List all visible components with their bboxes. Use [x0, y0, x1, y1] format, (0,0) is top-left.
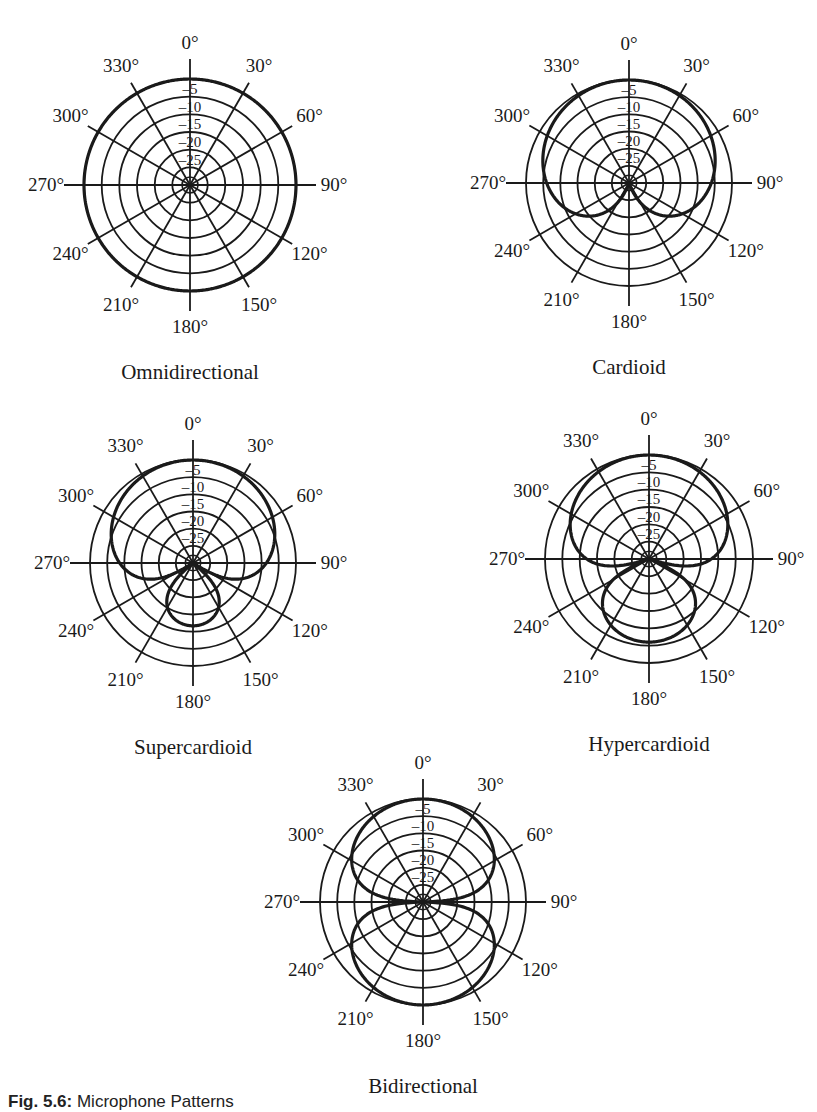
theta-label-300: 300° [58, 485, 94, 506]
plot-title: Hypercardioid [588, 732, 710, 756]
ring-label: –15 [178, 116, 202, 132]
theta-label-60: 60° [297, 485, 324, 506]
ring-label: –20 [411, 852, 435, 868]
ring-label: –15 [411, 835, 435, 851]
theta-label-120: 120° [292, 620, 328, 641]
ring-label: –15 [181, 496, 205, 512]
ring-label: –20 [178, 134, 202, 150]
theta-label-210: 210° [337, 1008, 373, 1029]
theta-label-240: 240° [288, 959, 324, 980]
theta-label-30: 30° [683, 55, 710, 76]
figure-caption-label: Fig. 5.6: [8, 1092, 72, 1111]
theta-label-270: 270° [28, 174, 64, 195]
theta-label-30: 30° [246, 55, 273, 76]
theta-label-150: 150° [699, 666, 735, 687]
polar-plot-cardioid: 0°30°60°90°120°150°180°210°240°270°300°3… [470, 33, 783, 379]
plot-title: Omnidirectional [121, 360, 259, 384]
ring-label: –20 [181, 513, 205, 529]
theta-label-120: 120° [749, 616, 785, 637]
theta-label-90: 90° [321, 174, 348, 195]
ring-label: –10 [617, 99, 641, 115]
plot-title: Cardioid [592, 355, 666, 379]
ring-label: –10 [637, 474, 661, 490]
ring-label: –10 [411, 818, 435, 834]
theta-label-120: 120° [291, 243, 327, 264]
ring-label: –20 [617, 133, 641, 149]
theta-label-60: 60° [753, 480, 780, 501]
theta-label-210: 210° [107, 669, 143, 690]
ring-label: –5 [185, 462, 201, 478]
theta-label-240: 240° [58, 620, 94, 641]
theta-label-180: 180° [172, 316, 208, 337]
theta-label-180: 180° [631, 688, 667, 709]
ring-label: –10 [178, 99, 202, 115]
theta-label-150: 150° [678, 289, 714, 310]
polar-plot-hypercardioid: 0°30°60°90°120°150°180°210°240°270°300°3… [489, 408, 804, 756]
theta-label-330: 330° [107, 435, 143, 456]
ring-label: –5 [621, 82, 637, 98]
ring-label: –5 [641, 457, 657, 473]
theta-label-90: 90° [321, 552, 348, 573]
theta-label-0: 0° [414, 752, 431, 773]
theta-label-0: 0° [184, 413, 201, 434]
ring-label: –5 [182, 81, 198, 97]
ring-label: –25 [178, 152, 202, 168]
theta-label-180: 180° [405, 1030, 441, 1051]
theta-label-60: 60° [733, 105, 760, 126]
theta-label-180: 180° [175, 691, 211, 712]
ring-label: –25 [411, 869, 435, 885]
theta-label-240: 240° [494, 240, 530, 261]
theta-label-300: 300° [513, 480, 549, 501]
plot-title: Bidirectional [368, 1074, 478, 1098]
theta-label-210: 210° [103, 294, 139, 315]
theta-label-0: 0° [640, 408, 657, 429]
theta-label-30: 30° [477, 774, 504, 795]
polar-plot-bidirectional: 0°30°60°90°120°150°180°210°240°270°300°3… [264, 752, 577, 1098]
theta-label-60: 60° [296, 105, 323, 126]
theta-label-90: 90° [778, 548, 805, 569]
theta-label-210: 210° [563, 666, 599, 687]
ring-label: –5 [415, 801, 431, 817]
ring-label: –15 [617, 116, 641, 132]
theta-label-330: 330° [337, 774, 373, 795]
theta-label-150: 150° [241, 294, 277, 315]
ring-label: –20 [637, 509, 661, 525]
theta-label-30: 30° [704, 430, 731, 451]
theta-label-150: 150° [242, 669, 278, 690]
theta-label-300: 300° [288, 824, 324, 845]
plot-title: Supercardioid [134, 735, 252, 759]
theta-label-90: 90° [551, 891, 578, 912]
theta-label-180: 180° [611, 311, 647, 332]
theta-label-330: 330° [563, 430, 599, 451]
polar-plot-supercardioid: 0°30°60°90°120°150°180°210°240°270°300°3… [34, 413, 347, 759]
theta-label-330: 330° [543, 55, 579, 76]
theta-label-120: 120° [522, 959, 558, 980]
theta-label-300: 300° [494, 105, 530, 126]
ring-label: –15 [637, 491, 661, 507]
polar-plot-omnidirectional: 0°30°60°90°120°150°180°210°240°270°300°3… [28, 32, 347, 384]
theta-label-0: 0° [181, 32, 198, 53]
figure-caption: Fig. 5.6: Microphone Patterns [8, 1092, 234, 1112]
theta-label-30: 30° [247, 435, 274, 456]
theta-label-0: 0° [620, 33, 637, 54]
theta-label-210: 210° [543, 289, 579, 310]
figure-caption-text: Microphone Patterns [72, 1092, 234, 1111]
ring-label: –10 [181, 479, 205, 495]
theta-label-270: 270° [489, 548, 525, 569]
theta-label-300: 300° [52, 105, 88, 126]
ring-label: –25 [637, 526, 661, 542]
theta-label-270: 270° [470, 172, 506, 193]
theta-label-240: 240° [513, 616, 549, 637]
theta-label-240: 240° [52, 243, 88, 264]
ring-label: –25 [181, 530, 205, 546]
theta-label-90: 90° [757, 172, 784, 193]
theta-label-270: 270° [264, 891, 300, 912]
theta-label-270: 270° [34, 552, 70, 573]
theta-label-150: 150° [472, 1008, 508, 1029]
theta-label-60: 60° [527, 824, 554, 845]
theta-label-330: 330° [103, 55, 139, 76]
ring-label: –25 [617, 150, 641, 166]
theta-label-120: 120° [728, 240, 764, 261]
